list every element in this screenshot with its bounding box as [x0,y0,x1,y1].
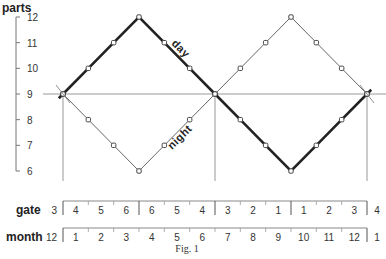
gate-segment-label: 3 [225,205,231,216]
gate-start-label: 3 [51,205,57,216]
data-point-marker [187,66,191,70]
month-segment-label: 4 [149,232,155,243]
data-point-marker [187,117,191,121]
gate-segment-label: 6 [124,205,130,216]
month-segment-label: 9 [276,232,282,243]
month-segment-label: 7 [225,232,231,243]
data-point-marker [238,66,242,70]
month-start-label: 12 [46,232,58,243]
y-axis: 6789101112 [16,12,39,177]
month-segment-label: 1 [73,232,79,243]
month-end-label: 1 [374,232,380,243]
month-segment-label: 11 [324,232,335,243]
month-scale-label: month [6,230,43,244]
data-point-marker [111,40,115,44]
data-point-marker [213,92,217,96]
month-segment-label: 6 [200,232,206,243]
month-segment-label: 12 [349,232,361,243]
data-point-marker [137,15,141,19]
y-tick-label: 9 [27,89,33,100]
reference-lines [43,94,386,181]
y-tick-label: 11 [27,38,38,49]
data-point-marker [339,66,343,70]
data-point-marker [289,15,293,19]
data-point-marker [238,117,242,121]
gate-segment-label: 2 [250,205,256,216]
data-point-marker [86,117,90,121]
gate-segment-label: 1 [301,205,307,216]
night-curve-label: night [165,122,194,151]
chart-figure: parts 6789101112 day night gate345665432… [0,0,386,259]
y-tick-label: 12 [27,12,39,23]
data-point-marker [263,40,267,44]
scales: gate34566543211234month12123456789101112… [6,201,380,244]
month-segment-label: 10 [298,232,310,243]
gate-segment-label: 3 [352,205,358,216]
gate-segment-label: 4 [73,205,79,216]
gate-scale-label: gate [16,203,41,217]
gate-segment-label: 6 [149,205,155,216]
y-tick-label: 7 [27,140,33,151]
data-point-marker [339,117,343,121]
gate-segment-label: 5 [174,205,180,216]
gate-segment-label: 5 [98,205,104,216]
data-point-marker [314,143,318,147]
figure-caption: Fig. 1 [175,243,198,254]
day-curve-label: day [170,37,193,60]
gate-segment-label: 2 [326,205,332,216]
data-point-marker [314,40,318,44]
data-point-marker [86,66,90,70]
gate-segment-label: 1 [276,205,282,216]
y-tick-label: 8 [27,115,33,126]
gate-segment-label: 4 [200,205,206,216]
month-segment-label: 5 [174,232,180,243]
data-point-marker [263,143,267,147]
data-point-marker [289,169,293,173]
data-point-marker [137,169,141,173]
y-tick-label: 10 [27,63,39,74]
data-point-marker [111,143,115,147]
month-segment-label: 8 [250,232,256,243]
data-point-marker [162,40,166,44]
month-segment-label: 2 [98,232,104,243]
gate-end-label: 4 [374,205,380,216]
y-tick-label: 6 [27,166,33,177]
month-segment-label: 3 [124,232,130,243]
